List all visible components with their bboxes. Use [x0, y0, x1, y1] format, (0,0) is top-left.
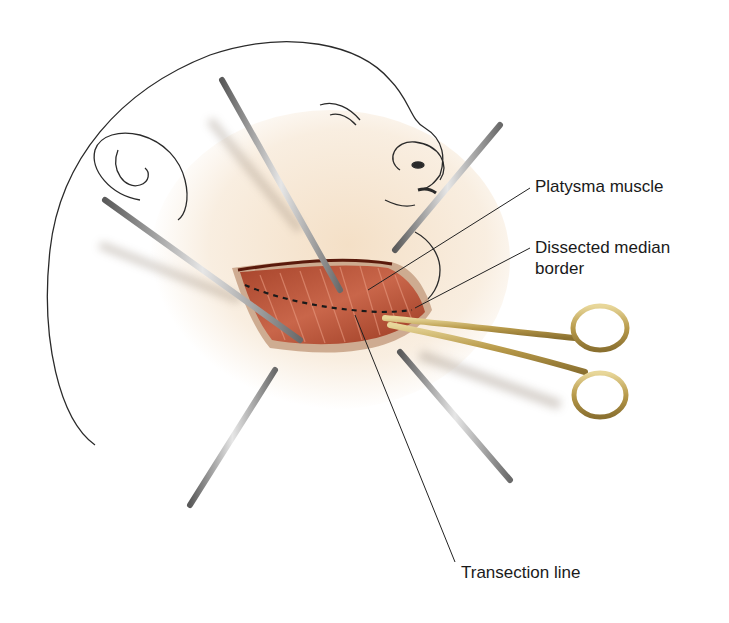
label-transection-line: Transection line [461, 562, 580, 583]
retractor-lower-left [190, 370, 275, 505]
label-dissected-median-border-line2: border [535, 258, 584, 279]
label-dissected-median-border-line1: Dissected median [535, 237, 670, 258]
scissors-ring-upper [573, 306, 627, 350]
label-platysma-muscle: Platysma muscle [535, 176, 663, 197]
scissors-ring-lower [574, 373, 626, 417]
surgical-illustration [0, 0, 729, 623]
